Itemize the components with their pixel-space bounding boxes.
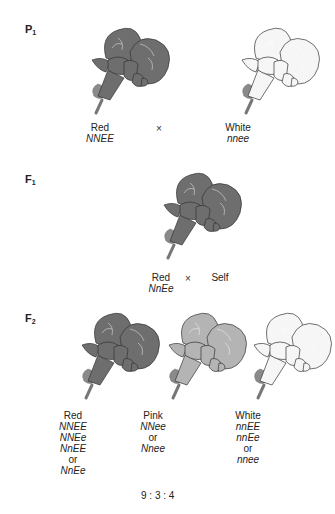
generation-subscript: 2 bbox=[32, 318, 36, 325]
genotype-text: nnee bbox=[228, 454, 268, 465]
generation-letter: F bbox=[25, 312, 32, 324]
flower-icon-white-p1 bbox=[218, 18, 328, 118]
label-f1-red: Red NnEe bbox=[141, 272, 181, 294]
flower-icon-white-f2 bbox=[230, 303, 335, 403]
genotype-text: nnee bbox=[208, 133, 268, 144]
generation-label-p1: P1 bbox=[25, 23, 36, 36]
or-text: or bbox=[133, 432, 173, 443]
or-text: or bbox=[53, 454, 93, 465]
label-f1-self: Self bbox=[205, 272, 235, 283]
phenotype-text: Red bbox=[53, 410, 93, 421]
phenotype-ratio: 9 : 3 : 4 bbox=[141, 490, 174, 501]
genotype-text: NnEe bbox=[53, 465, 93, 476]
label-p1-red: Red NNEE bbox=[70, 122, 130, 144]
phenotype-text: White bbox=[208, 122, 268, 133]
label-f2-pink: Pink NNee or Nnee bbox=[133, 410, 173, 454]
generation-label-f1: F1 bbox=[25, 173, 36, 186]
genotype-text: NNEE bbox=[53, 421, 93, 432]
label-f2-white: White nnEE nnEe or nnee bbox=[228, 410, 268, 465]
genotype-text: nnEe bbox=[228, 432, 268, 443]
generation-subscript: 1 bbox=[32, 29, 36, 36]
phenotype-text: Red bbox=[141, 272, 181, 283]
genotype-text: NNEE bbox=[70, 133, 130, 144]
flower-icon-red-f1 bbox=[140, 163, 250, 263]
label-p1-white: White nnee bbox=[208, 122, 268, 144]
phenotype-text: White bbox=[228, 410, 268, 421]
generation-letter: F bbox=[25, 173, 32, 185]
cross-symbol-f1: × bbox=[185, 273, 191, 284]
genotype-text: nnEE bbox=[228, 421, 268, 432]
genotype-text: Nnee bbox=[133, 443, 173, 454]
or-text: or bbox=[228, 443, 268, 454]
genotype-text: NnEe bbox=[141, 283, 181, 294]
phenotype-text: Pink bbox=[133, 410, 173, 421]
cross-symbol-p1: × bbox=[156, 123, 162, 134]
flower-icon-red-p1 bbox=[68, 18, 178, 118]
label-f2-red: Red NNEE NNEe NnEE or NnEe bbox=[53, 410, 93, 476]
generation-subscript: 1 bbox=[32, 179, 36, 186]
genotype-text: NNee bbox=[133, 421, 173, 432]
genotype-text: NNEe bbox=[53, 432, 93, 443]
generation-label-f2: F2 bbox=[25, 312, 36, 325]
genotype-text: NnEE bbox=[53, 443, 93, 454]
phenotype-text: Red bbox=[70, 122, 130, 133]
